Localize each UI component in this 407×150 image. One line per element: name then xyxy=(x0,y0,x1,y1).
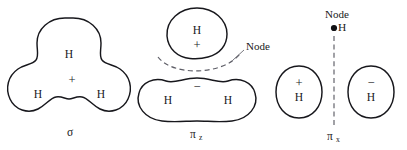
pi-z-orbital-subscript-label: z xyxy=(199,133,203,142)
sigma-orbital-name-label: σ xyxy=(67,126,74,138)
panel-pi-z: H + Node − H H π z xyxy=(138,8,270,142)
sigma-trefoil-outline xyxy=(8,18,131,111)
pi-z-plus-sign: + xyxy=(193,38,200,52)
sigma-h-right-label: H xyxy=(97,88,106,101)
pi-z-h-left-label: H xyxy=(164,94,173,107)
pi-x-orbital-name-label: π xyxy=(327,130,333,142)
pi-z-node-label: Node xyxy=(246,40,270,52)
sigma-h-top-label: H xyxy=(65,48,74,61)
pi-x-h-right-label: H xyxy=(367,91,376,104)
pi-x-orbital-subscript-label: x xyxy=(336,135,340,144)
pi-x-minus-sign: − xyxy=(367,76,374,90)
pi-z-orbital-name-label: π xyxy=(190,128,196,140)
orbital-diagram-svg: H + H H σ H + Node − H H π z xyxy=(0,0,407,150)
pi-x-node-dot-icon xyxy=(331,25,337,31)
pi-x-plus-sign: + xyxy=(295,76,302,90)
sigma-plus-sign: + xyxy=(68,73,75,87)
pi-z-minus-sign: − xyxy=(193,80,200,94)
pi-z-h-top-label: H xyxy=(193,24,202,37)
pi-z-node-leader-line xyxy=(233,50,244,60)
pi-x-node-label: Node xyxy=(325,8,349,20)
pi-x-h-left-label: H xyxy=(295,91,304,104)
sigma-h-left-label: H xyxy=(34,88,43,101)
pi-z-h-right-label: H xyxy=(224,94,233,107)
orbital-diagram-figure: H + H H σ H + Node − H H π z xyxy=(0,0,407,150)
panel-sigma: H + H H σ xyxy=(8,18,131,138)
panel-pi-x: Node H + H − H π x xyxy=(276,8,394,144)
pi-x-dot-atom-label: H xyxy=(338,21,346,33)
